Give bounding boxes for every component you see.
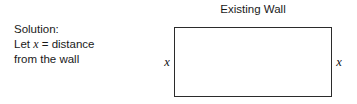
solution-heading: Solution: bbox=[14, 22, 95, 37]
solution-let-keyword: Let bbox=[14, 38, 30, 50]
side-label-right-x: x bbox=[333, 55, 345, 69]
figure-canvas: Solution: Let x = distance from the wall… bbox=[0, 0, 357, 104]
solution-text-block: Solution: Let x = distance from the wall bbox=[14, 22, 95, 67]
equals-sign: = bbox=[42, 38, 49, 50]
solution-definition-continued: from the wall bbox=[14, 52, 95, 67]
rectangle-shape bbox=[174, 27, 332, 97]
side-label-left-x: x bbox=[161, 55, 173, 69]
solution-definition-word: distance bbox=[52, 38, 95, 50]
variable-x-inline: x bbox=[33, 37, 38, 51]
existing-wall-label: Existing Wall bbox=[174, 2, 332, 16]
solution-definition-line: Let x = distance bbox=[14, 37, 95, 52]
